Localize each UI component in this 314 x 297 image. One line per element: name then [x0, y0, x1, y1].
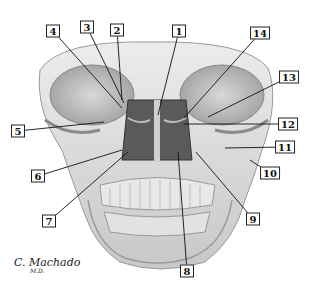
anatomy-figure: 1234567891011121314 C. Machado M.D. — [0, 0, 314, 297]
callout-label-6: 6 — [31, 170, 45, 183]
skull-illustration — [0, 0, 314, 297]
signature-name: C. Machado — [14, 256, 80, 269]
callout-label-11: 11 — [275, 141, 295, 154]
callout-label-3: 3 — [80, 21, 94, 34]
callout-label-2: 2 — [110, 24, 124, 37]
callout-label-9: 9 — [246, 213, 260, 226]
callout-label-5: 5 — [11, 125, 25, 138]
callout-label-14: 14 — [250, 27, 270, 40]
callout-label-4: 4 — [46, 25, 60, 38]
callout-label-13: 13 — [279, 71, 299, 84]
callout-label-8: 8 — [180, 265, 194, 278]
callout-label-7: 7 — [42, 215, 56, 228]
right-orbit — [180, 65, 264, 125]
callout-label-1: 1 — [172, 25, 186, 38]
callout-label-12: 12 — [278, 118, 298, 131]
artist-signature: C. Machado M.D. — [14, 256, 80, 274]
callout-label-10: 10 — [260, 167, 280, 180]
